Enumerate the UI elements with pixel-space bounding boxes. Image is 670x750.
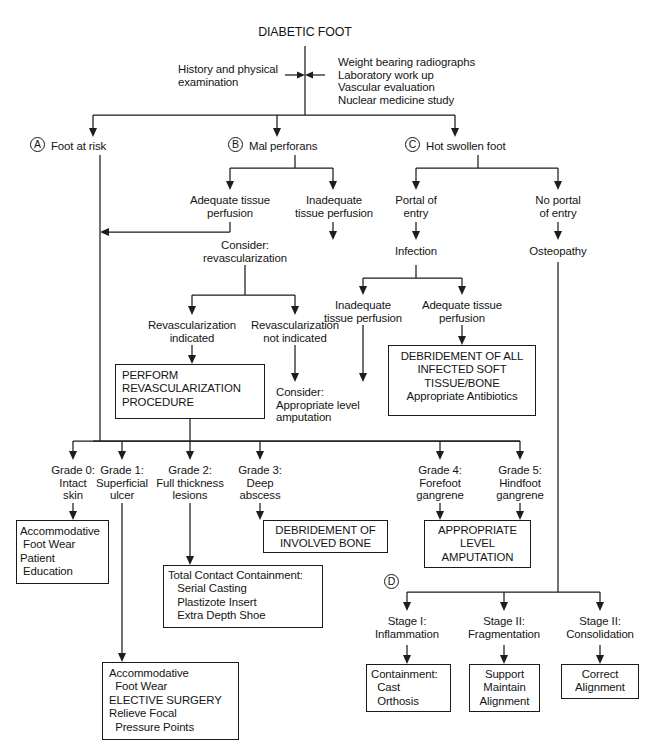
perform-revascularization-text: PERFORM REVASCULARIZATION PROCEDURE xyxy=(122,369,264,409)
appropriate-level-amputation-text: APPROPRIATE LEVEL AMPUTATION xyxy=(425,524,530,564)
branch-marker-b: B xyxy=(228,137,243,152)
osteopathy-label: Osteopathy xyxy=(518,245,598,258)
consider-revascularization-label: Consider: revascularization xyxy=(178,239,312,264)
total-contact-containment-text: Total Contact Containment: Serial Castin… xyxy=(168,569,322,623)
debridement-involved-bone-text: DEBRIDEMENT OF INVOLVED BONE xyxy=(264,524,387,551)
accommodative-elective-surgery-text: Accommodative Foot Wear ELECTIVE SURGERY… xyxy=(109,667,239,734)
grade-5-label: Grade 5: Hindfoot gangrene xyxy=(472,464,568,502)
infection-label: Infection xyxy=(376,245,456,258)
debridement-soft-tissue-text: DEBRIDEMENT OF ALL INFECTED SOFT TISSUE/… xyxy=(390,350,534,404)
stage-3-label: Stage II: Consolidation xyxy=(544,615,656,640)
infection-child-inadequate-perfusion: Inadequate tissue perfusion xyxy=(308,299,418,324)
workup-right-text: Weight bearing radiographs Laboratory wo… xyxy=(338,56,518,106)
revascularization-indicated-label: Revascularization indicated xyxy=(134,319,250,344)
stage-box-correct-alignment-text: Correct Alignment xyxy=(562,668,638,695)
branch-label-c: Hot swollen foot xyxy=(426,140,556,153)
branch-label-a: Foot at risk xyxy=(51,140,161,153)
b-child-adequate-perfusion: Adequate tissue perfusion xyxy=(175,194,285,219)
c-child-portal-of-entry: Portal of entry xyxy=(370,194,462,219)
branch-marker-c: C xyxy=(405,137,420,152)
c-child-no-portal-of-entry: No portal of entry xyxy=(512,194,604,219)
consider-amputation-label: Consider: Appropriate level amputation xyxy=(276,386,406,424)
stage-box-support-text: Support Maintain Alignment xyxy=(470,668,539,708)
accommodative-footwear-text-1: Accommodative Foot Wear Patient Educatio… xyxy=(20,525,108,579)
diagram-title: DIABETIC FOOT xyxy=(245,26,365,39)
infection-child-adequate-perfusion: Adequate tissue perfusion xyxy=(407,299,517,324)
workup-left-text: History and physical examination xyxy=(178,63,298,88)
branch-marker-a: A xyxy=(30,137,45,152)
stage-marker-d: D xyxy=(384,574,399,589)
branch-label-b: Mal perforans xyxy=(249,140,359,153)
diabetic-foot-flowchart: DIABETIC FOOT History and physical exami… xyxy=(0,0,670,750)
stage-box-containment-text: Containment: Cast Orthosis xyxy=(371,668,451,708)
grade-3-label: Grade 3: Deep abscess xyxy=(213,464,307,502)
